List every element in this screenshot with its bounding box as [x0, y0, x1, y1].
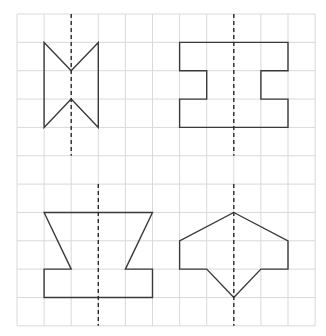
shapes: [44, 42, 288, 297]
symmetry-figure: [0, 0, 326, 336]
